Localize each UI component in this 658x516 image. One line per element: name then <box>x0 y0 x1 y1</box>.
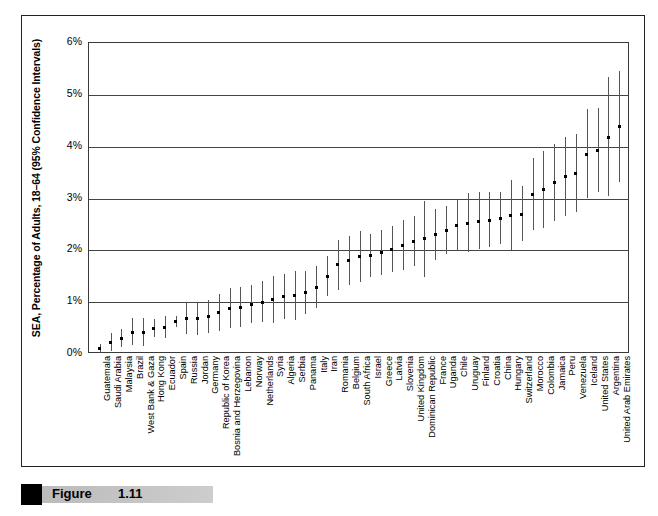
y-axis-tick-label: 2% <box>48 242 82 254</box>
caption-label: Figure <box>52 486 92 501</box>
data-point <box>293 294 296 297</box>
x-axis-label: Romania <box>340 356 350 393</box>
plot-area <box>88 42 629 353</box>
caption-bar <box>21 486 213 503</box>
data-point <box>185 317 188 320</box>
data-point <box>217 311 220 314</box>
x-axis-label: United States <box>600 356 610 411</box>
x-axis-label: Argentina <box>611 356 621 395</box>
data-point <box>401 244 404 247</box>
data-point <box>282 295 285 298</box>
x-axis-label: Slovenia <box>405 356 415 391</box>
x-axis-label: United Arab Emirates <box>622 356 632 443</box>
data-point <box>380 251 383 254</box>
data-point <box>261 301 264 304</box>
x-axis-label: Russia <box>189 356 199 384</box>
x-axis-label: Iceland <box>589 356 599 386</box>
x-axis-label: Syria <box>275 356 285 377</box>
data-point <box>607 136 610 139</box>
data-point <box>369 254 372 257</box>
data-point <box>390 248 393 251</box>
data-point <box>553 181 556 184</box>
data-point <box>520 213 523 216</box>
x-axis-label: Bosnia and Herzegovina <box>232 356 242 456</box>
x-axis-label: Germany <box>210 356 220 394</box>
data-point <box>131 331 134 334</box>
x-axis-label: Uruguay <box>470 356 480 391</box>
x-axis-label: Saudi Arabia <box>113 356 123 408</box>
data-point <box>531 193 534 196</box>
figure-page: SEA, Percentage of Adults, 18–64 (95% Co… <box>0 0 658 516</box>
data-point <box>315 286 318 289</box>
x-axis-label: Lebanon <box>243 356 253 392</box>
x-axis-label: South Africa <box>362 356 372 406</box>
x-axis-label: Brazil <box>135 356 145 379</box>
data-point <box>585 153 588 156</box>
data-point <box>304 291 307 294</box>
x-axis-label: Switzerland <box>524 356 534 404</box>
x-axis-label: Italy <box>319 356 329 373</box>
x-axis-label: Algeria <box>286 356 296 385</box>
y-axis-tick-label: 1% <box>48 294 82 306</box>
data-point <box>98 347 101 350</box>
data-point <box>271 298 274 301</box>
y-axis-tick-label: 3% <box>48 191 82 203</box>
x-axis-label: Belgium <box>351 356 361 389</box>
x-axis-label: China <box>503 356 513 380</box>
data-point <box>336 263 339 266</box>
data-point <box>455 224 458 227</box>
x-axis-label: Hong Kong <box>156 356 166 402</box>
x-axis-label: France <box>438 356 448 385</box>
data-point <box>174 320 177 323</box>
x-axis-category-labels: GuatemalaSaudi ArabiaMalaysiaBrazilWest … <box>88 356 629 464</box>
x-axis-label: Norway <box>254 356 264 387</box>
caption-number: 1.11 <box>118 486 143 501</box>
data-point <box>109 341 112 344</box>
data-point <box>239 306 242 309</box>
data-point <box>564 175 567 178</box>
y-axis-tick-label: 5% <box>48 87 82 99</box>
data-point <box>196 317 199 320</box>
x-axis-label: West Bank & Gaza <box>146 356 156 433</box>
data-point <box>574 172 577 175</box>
y-axis-tick-label: 4% <box>48 139 82 151</box>
x-axis-label: Latvia <box>394 356 404 381</box>
x-axis-label: Dominican Republic <box>427 356 437 438</box>
data-point <box>228 307 231 310</box>
data-point <box>358 255 361 258</box>
data-point <box>509 214 512 217</box>
x-axis-label: Iran <box>329 356 339 372</box>
x-axis-label: Morocco <box>535 356 545 391</box>
data-point <box>412 240 415 243</box>
x-axis-label: Colombia <box>546 356 556 395</box>
x-axis-label: Venezuela <box>578 356 588 399</box>
data-point <box>488 219 491 222</box>
x-axis-label: Malaysia <box>124 356 134 392</box>
data-point <box>477 220 480 223</box>
data-point <box>499 217 502 220</box>
data-point <box>142 331 145 334</box>
data-point <box>250 303 253 306</box>
data-series-error-bars <box>89 43 628 352</box>
x-axis-label: Jamaica <box>557 356 567 390</box>
x-axis-label: Israel <box>373 356 383 378</box>
data-point <box>120 337 123 340</box>
data-point <box>596 149 599 152</box>
y-axis-tick-labels: 6%5%4%3%2%1%0% <box>44 42 82 353</box>
data-point <box>434 233 437 236</box>
data-point <box>347 259 350 262</box>
x-axis-label: Ecuador <box>167 356 177 390</box>
x-axis-label: Finland <box>481 356 491 386</box>
x-axis-label: Croatia <box>492 356 502 386</box>
data-point <box>466 222 469 225</box>
data-point <box>326 275 329 278</box>
x-axis-label: Spain <box>178 356 188 380</box>
data-point <box>542 188 545 191</box>
data-point <box>163 326 166 329</box>
y-axis-title: SEA, Percentage of Adults, 18–64 (95% Co… <box>30 23 42 353</box>
x-axis-label: Netherlands <box>265 356 275 406</box>
data-point <box>618 125 621 128</box>
x-axis-label: Chile <box>459 356 469 377</box>
x-axis-label: Hungary <box>513 356 523 391</box>
y-axis-tick-label: 6% <box>48 35 82 47</box>
